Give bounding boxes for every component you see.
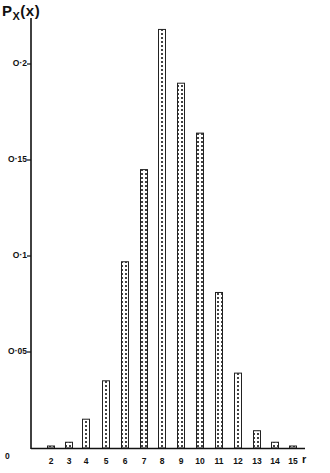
bar-r-6: [122, 262, 129, 448]
x-tick-label: 7: [134, 456, 154, 466]
bar-r-7: [141, 170, 148, 448]
x-tick-label: 2: [41, 456, 61, 466]
bar-r-3: [66, 442, 73, 448]
bar-r-10: [197, 133, 204, 448]
x-tick-label: 4: [76, 456, 96, 466]
y-tick-label: O·05: [8, 346, 27, 356]
x-tick-label: 14: [265, 456, 285, 466]
bar-chart: [0, 0, 330, 473]
bar-r-9: [178, 83, 185, 448]
x-tick-label: 8: [152, 456, 172, 466]
bar-r-12: [235, 373, 242, 448]
bars-group: [48, 29, 297, 448]
x-tick-label: 10: [190, 456, 210, 466]
bar-r-5: [103, 381, 110, 448]
x-tick-label: 15: [283, 456, 303, 466]
x-tick-label: 13: [247, 456, 267, 466]
bar-r-11: [216, 292, 223, 448]
bar-r-14: [272, 442, 279, 448]
y-tick-label: O·1: [13, 250, 27, 260]
x-tick-label: 9: [171, 456, 191, 466]
bar-r-4: [83, 419, 90, 448]
y-axis-label: PX(x): [2, 2, 40, 22]
bar-r-13: [254, 431, 261, 448]
x-tick-label: 11: [209, 456, 229, 466]
y-tick-label: O·2: [13, 58, 27, 68]
x-tick-label: 12: [228, 456, 248, 466]
origin-label: 0: [5, 451, 10, 461]
y-tick-label: O·15: [8, 154, 27, 164]
bar-r-8: [159, 29, 166, 448]
x-axis-label: r: [302, 453, 306, 465]
x-tick-label: 6: [115, 456, 135, 466]
x-tick-label: 5: [96, 456, 116, 466]
